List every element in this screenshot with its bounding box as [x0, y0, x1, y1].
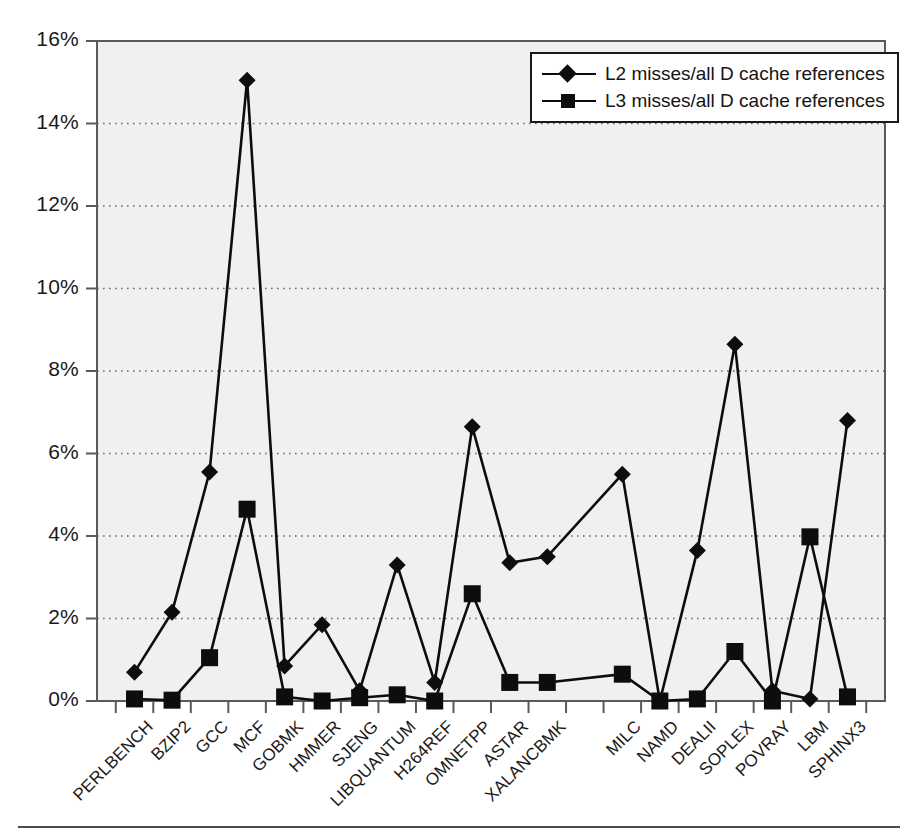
y-axis-tick-label: 12%: [36, 192, 79, 216]
data-point-l3: [689, 690, 706, 707]
legend-item-l2: L2 misses/all D cache references: [542, 60, 885, 87]
data-point-l3: [614, 666, 631, 683]
data-point-l3: [501, 674, 518, 691]
y-axis-tick-label: 14%: [36, 110, 79, 134]
data-point-l3: [464, 585, 481, 602]
chart-figure: 0%2%4%6%8%10%12%14%16% PERLBENCHBZIP2GCC…: [0, 0, 918, 840]
legend-square-marker-icon: [542, 90, 596, 112]
y-axis-tick-label: 8%: [48, 357, 79, 381]
data-point-l3: [201, 649, 218, 666]
data-point-l3: [314, 693, 331, 710]
y-axis-tick-label: 16%: [36, 27, 79, 51]
data-point-l3: [389, 686, 406, 703]
y-axis-tick-label: 0%: [48, 687, 79, 711]
data-point-l3: [276, 688, 293, 705]
data-point-l3: [239, 501, 256, 518]
data-point-l3: [726, 643, 743, 660]
data-point-l3: [651, 693, 668, 710]
legend-label-l2: L2 misses/all D cache references: [605, 63, 885, 85]
y-axis-tick-label: 10%: [36, 275, 79, 299]
data-point-l3: [801, 528, 818, 545]
legend-label-l3: L3 misses/all D cache references: [605, 90, 885, 112]
data-point-l3: [839, 688, 856, 705]
y-axis-tick-label: 4%: [48, 522, 79, 546]
data-point-l3: [164, 692, 181, 709]
data-point-l3: [764, 693, 781, 710]
chart-legend: L2 misses/all D cache references L3 miss…: [530, 52, 899, 123]
plot-background: [97, 41, 885, 701]
data-point-l3: [351, 689, 368, 706]
data-point-l3: [426, 693, 443, 710]
legend-diamond-marker-icon: [542, 63, 596, 85]
chart-plot-area: [0, 0, 918, 840]
legend-item-l3: L3 misses/all D cache references: [542, 87, 885, 114]
y-axis-tick-label: 2%: [48, 605, 79, 629]
data-point-l3: [126, 690, 143, 707]
y-axis-tick-label: 6%: [48, 440, 79, 464]
data-point-l3: [539, 674, 556, 691]
